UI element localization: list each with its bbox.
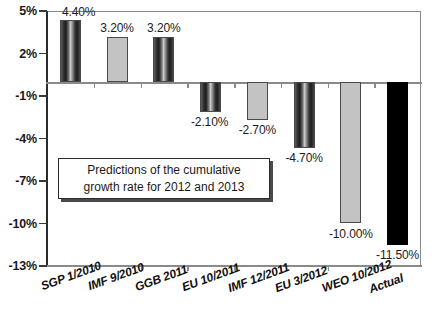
x-axis-tick [94,82,96,88]
x-axis-tick [141,82,143,88]
y-axis-tick-label: -1% [0,89,37,103]
y-axis-tick [39,53,47,55]
bar-value-label: 3.20% [147,21,181,35]
x-axis-tick-bottom [328,266,330,271]
bar-value-label: 3.20% [100,21,134,35]
x-axis-tick [234,82,236,88]
y-axis-tick-label: -13% [0,259,37,273]
annotation-line-1: Predictions of the cumulative [87,162,240,178]
annotation-line-2: growth rate for 2012 and 2013 [84,179,245,195]
bar-imf-12-2011 [247,82,268,120]
y-axis-tick-label: 5% [0,4,37,18]
bar-value-label: -4.70% [285,151,322,165]
bar-eu-3-2012 [294,82,315,149]
bar-value-label: -10.00% [329,227,373,241]
x-axis-tick [328,82,330,88]
y-axis-tick [39,10,47,12]
y-axis-tick-label: -10% [0,217,37,231]
bar-ggb-2011 [153,37,174,82]
y-axis-tick-label: 2% [0,47,37,61]
x-axis-tick [374,82,376,88]
bar-value-label: 4.40% [62,5,96,19]
bar-imf-9-2010 [107,37,128,82]
y-axis-tick [39,138,47,140]
annotation-box: Predictions of the cumulative growth rat… [58,158,270,199]
y-axis-tick [39,95,47,97]
bar-sgp-1-2010 [60,20,81,82]
y-axis-tick [39,180,47,182]
x-axis-tick [281,82,283,88]
bar-weo-10-2012 [340,82,361,224]
bar-value-label: -2.70% [239,123,276,137]
bar-actual [387,82,408,245]
bar-chart: 5%2%-1%-4%-7%-10%-13% 4.40%3.20%3.20%-2.… [0,0,432,319]
y-axis-tick-label: -7% [0,174,37,188]
bar-eu-10-2011 [200,82,221,112]
y-axis-tick-label: -4% [0,132,37,146]
x-axis-tick [187,82,189,88]
y-axis-tick [39,265,47,267]
bar-value-label: -2.10% [191,115,228,129]
y-axis-tick [39,223,47,225]
